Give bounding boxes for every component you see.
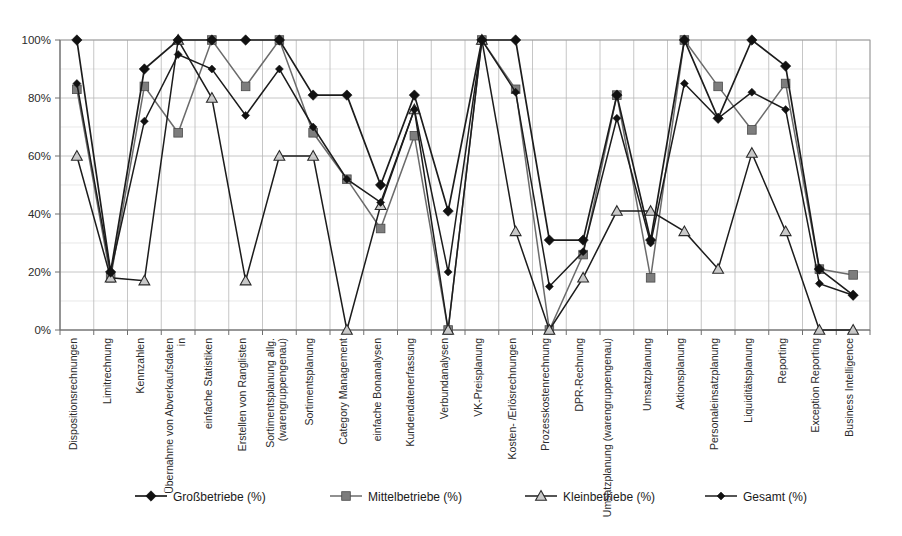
data-point: [748, 126, 757, 135]
x-tick-label: in: [175, 338, 187, 346]
chart-container: 0%20%40%60%80%100%Dispositionsrechnungen…: [0, 0, 902, 536]
data-point: [342, 492, 351, 501]
data-point: [714, 82, 723, 91]
data-point: [376, 224, 385, 233]
data-point: [206, 93, 217, 103]
y-tick-label: 20%: [28, 266, 51, 278]
data-point: [717, 492, 725, 500]
y-tick-label: 40%: [28, 208, 51, 220]
legend-label[interactable]: Kleinbetriebe (%): [563, 490, 655, 504]
data-point: [342, 90, 352, 100]
data-point: [780, 226, 791, 236]
x-axis-ticks: [60, 330, 870, 335]
line-chart: 0%20%40%60%80%100%Dispositionsrechnungen…: [0, 0, 902, 536]
y-axis-ticks: 0%20%40%60%80%100%: [22, 34, 60, 336]
data-point: [240, 275, 251, 285]
x-tick-label: DPR-Rechnung: [573, 338, 585, 412]
legend: Großbetriebe (%)Mittelbetriebe (%)Kleinb…: [135, 490, 807, 504]
legend-label[interactable]: Mittelbetriebe (%): [368, 490, 462, 504]
data-point: [782, 106, 790, 114]
x-tick-label: Category Management: [337, 338, 349, 445]
data-point: [174, 129, 183, 138]
data-point: [746, 148, 757, 158]
x-tick-label: Dispositionsrechnungen: [67, 338, 79, 450]
x-tick-label: Übernahme von Abverkaufsdaten: [163, 338, 175, 494]
x-tick-label: Limitrechnung: [101, 338, 113, 404]
data-point: [308, 90, 318, 100]
y-tick-label: 0%: [34, 324, 51, 336]
data-point: [443, 206, 453, 216]
x-tick-label: Kosten- /Erlösrechnungen: [506, 338, 518, 460]
x-tick-label: (warengruppengenau): [276, 338, 288, 441]
x-tick-label: Personaleinsatzplanung: [708, 338, 720, 450]
data-point: [510, 35, 520, 45]
y-tick-label: 60%: [28, 150, 51, 162]
data-point: [71, 151, 82, 161]
data-point: [578, 272, 589, 282]
data-point: [510, 226, 521, 236]
data-point: [613, 114, 621, 122]
data-point: [815, 280, 823, 288]
legend-label[interactable]: Großbetriebe (%): [173, 490, 266, 504]
x-tick-label: Sortimentsplanung: [303, 338, 315, 426]
data-point: [241, 82, 250, 91]
data-point: [645, 235, 655, 245]
x-tick-label: Erstellen von Ranglisten: [236, 338, 248, 451]
data-point: [679, 226, 690, 236]
data-point: [849, 271, 858, 280]
data-point: [72, 35, 82, 45]
data-point: [146, 491, 156, 501]
data-point: [409, 90, 419, 100]
x-tick-label: Prozesskostenrechnung: [539, 338, 551, 451]
x-tick-label: Kundendatenerfassung: [404, 338, 416, 447]
data-point: [140, 117, 148, 125]
legend-label[interactable]: Gesamt (%): [743, 490, 807, 504]
x-tick-label: Reporting: [776, 338, 788, 384]
x-tick-label: Exception Reporting: [809, 338, 821, 433]
x-tick-label: Verbundanalysen: [438, 338, 450, 419]
x-tick-label: Aktionsplanung: [674, 338, 686, 410]
data-point: [375, 180, 385, 190]
x-tick-label: Umsatzplanung: [641, 338, 653, 411]
y-tick-label: 80%: [28, 92, 51, 104]
x-tick-label: Sortimentsplanung allg.: [264, 338, 276, 448]
x-tick-label: einfache Bonanalysen: [371, 338, 383, 441]
data-point: [646, 274, 655, 283]
x-tick-label: VK-Preisplanung: [472, 338, 484, 417]
data-point: [544, 235, 554, 245]
data-point: [444, 268, 452, 276]
x-tick-label: Liquiditätsplanung: [742, 338, 754, 423]
x-tick-label: einfache Statistiken: [202, 338, 214, 429]
data-point: [240, 35, 250, 45]
x-tick-label: Kennzahlen: [134, 338, 146, 394]
x-tick-label: Business Intelligence: [843, 338, 855, 437]
data-point: [341, 325, 352, 335]
y-tick-label: 100%: [22, 34, 51, 46]
